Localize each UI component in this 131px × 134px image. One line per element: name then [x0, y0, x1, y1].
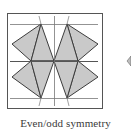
symmetry-diagram: [0, 0, 131, 134]
figure-caption: Even/odd symmetry: [0, 117, 131, 129]
partial-adjacent-shape: [127, 56, 131, 66]
